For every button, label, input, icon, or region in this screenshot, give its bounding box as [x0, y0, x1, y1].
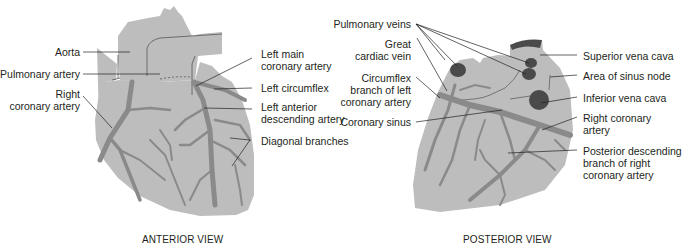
pulmonary-vein-1 — [450, 63, 466, 77]
label-posterior-descending-branch: Posterior descending branch of right cor… — [583, 145, 682, 181]
label-left-main-coronary-artery: Left main coronary artery — [261, 48, 332, 72]
label-pulmonary-artery: Pulmonary artery — [0, 68, 80, 80]
label-circumflex-branch: Circumflex branch of left coronary arter… — [340, 72, 411, 108]
caption-anterior-view: ANTERIOR VIEW — [142, 234, 223, 245]
caption-posterior-view: POSTERIOR VIEW — [463, 234, 552, 245]
label-pulmonary-veins: Pulmonary veins — [333, 18, 411, 30]
label-aorta: Aorta — [55, 46, 80, 58]
label-great-cardiac-vein: Great cardiac vein — [355, 38, 411, 62]
label-left-anterior-descending-artery: Left anterior descending artery — [261, 101, 344, 125]
anterior-heart-body — [95, 62, 254, 216]
label-diagonal-branches: Diagonal branches — [261, 135, 349, 147]
label-right-coronary-artery-posterior: Right coronary artery — [583, 112, 651, 136]
ivc-shape — [529, 90, 549, 110]
label-right-coronary-artery: Right coronary artery — [9, 88, 80, 112]
label-left-circumflex: Left circumflex — [261, 82, 329, 94]
anterior-heart — [83, 6, 254, 216]
posterior-heart — [413, 24, 577, 212]
pulmonary-vein-2 — [525, 58, 537, 68]
label-area-of-sinus-node: Area of sinus node — [583, 70, 671, 82]
label-superior-vena-cava: Superior vena cava — [583, 50, 673, 62]
pulmonary-vein-3 — [522, 68, 536, 80]
label-inferior-vena-cava: Inferior vena cava — [583, 92, 666, 104]
label-coronary-sinus: Coronary sinus — [340, 116, 411, 128]
